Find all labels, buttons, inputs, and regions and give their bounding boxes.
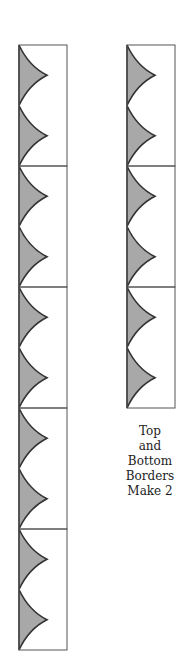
caption-line: Make 2 xyxy=(112,484,188,499)
triangle-shape xyxy=(19,590,47,651)
triangle-shape xyxy=(19,106,47,167)
caption-line: Bottom xyxy=(112,454,188,469)
top-bottom-border-strip xyxy=(126,44,176,409)
triangle-shape xyxy=(127,166,155,227)
caption-line: Borders xyxy=(112,469,188,484)
triangle-shape xyxy=(19,166,47,227)
triangle-shape xyxy=(127,227,155,288)
triangle-shape xyxy=(19,529,47,590)
side-border-strip xyxy=(18,44,68,651)
triangle-shape xyxy=(19,408,47,469)
triangle-shape xyxy=(127,45,155,106)
caption: Top and Bottom Borders Make 2 xyxy=(112,424,188,499)
caption-line: Top xyxy=(112,424,188,439)
triangle-shape xyxy=(19,469,47,530)
triangle-shape xyxy=(127,106,155,167)
triangle-shape xyxy=(19,45,47,106)
triangle-shape xyxy=(19,348,47,409)
triangle-shape xyxy=(127,348,155,409)
triangle-shape xyxy=(19,287,47,348)
triangle-shape xyxy=(127,287,155,348)
triangle-shape xyxy=(19,227,47,288)
caption-line: and xyxy=(112,439,188,454)
